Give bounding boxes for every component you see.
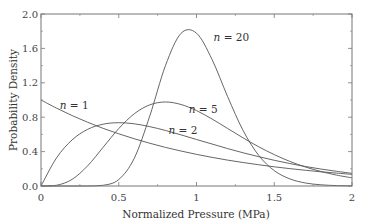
curve-annotations: n = 1n = 2n = 5n = 20: [60, 31, 250, 136]
x-tick-label: 1.5: [266, 192, 282, 203]
y-tick-label: 0.4: [22, 146, 38, 157]
x-axis-title: Normalized Pressure (MPa): [122, 208, 269, 220]
x-tick-label: 1: [193, 192, 199, 203]
y-tick-label: 1.6: [22, 43, 38, 54]
curve-label: n = 5: [189, 103, 218, 115]
y-tick-label: 0.8: [22, 112, 38, 123]
chart: 00.511.520.00.40.81.21.62.0 Normalized P…: [0, 0, 366, 224]
y-tick-label: 0.0: [22, 181, 38, 192]
curve-label: n = 2: [169, 124, 198, 136]
y-tick-label: 1.2: [22, 77, 38, 88]
x-tick-label: 0: [38, 192, 44, 203]
x-tick-label: 2: [349, 192, 355, 203]
y-tick-label: 2.0: [22, 9, 38, 20]
y-axis-title: Probability Density: [7, 49, 19, 151]
curve-label: n = 1: [60, 99, 89, 111]
curve-label: n = 20: [214, 31, 250, 43]
x-tick-label: 0.5: [111, 192, 127, 203]
